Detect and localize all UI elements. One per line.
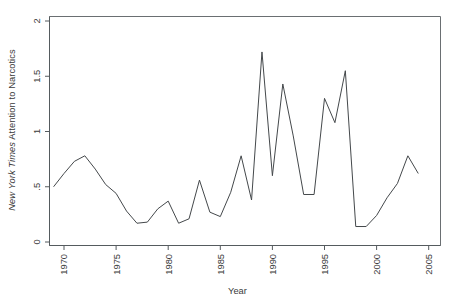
plot-canvas: 0.511.52 1970197519801985199019952000200… (0, 0, 457, 305)
chart-figure: New York Times Attention to Narcotics 0.… (0, 0, 457, 305)
x-axis-ticks: 19701975198019851990199520002005 (59, 246, 434, 275)
x-tick-label: 1985 (216, 254, 226, 275)
y-tick-label: 0 (32, 239, 42, 244)
plot-frame (50, 17, 441, 246)
x-tick-label: 1975 (112, 254, 122, 275)
x-tick-label: 1970 (59, 254, 69, 275)
x-tick-label: 1995 (320, 254, 330, 275)
y-tick-label: 1.5 (32, 70, 42, 83)
data-series-line (54, 52, 419, 227)
y-axis-ticks: 0.511.52 (32, 18, 50, 244)
y-tick-label: 1 (32, 129, 42, 134)
x-tick-label: 2005 (424, 254, 434, 275)
y-tick-label: 2 (32, 18, 42, 23)
x-tick-label: 1980 (164, 254, 174, 275)
x-tick-label: 1990 (268, 254, 278, 275)
x-axis-title: Year (228, 286, 247, 296)
y-tick-label: .5 (32, 183, 42, 191)
x-tick-label: 2000 (372, 254, 382, 275)
x-axis-title-container: Year (0, 286, 457, 296)
